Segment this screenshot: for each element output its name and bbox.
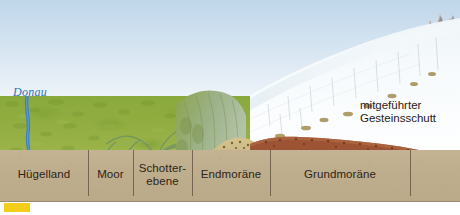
callout-mitgefuehrter-gesteinsschutt: mitgeführter Gesteinsschutt <box>360 99 436 125</box>
donau-label: Donau <box>13 85 47 100</box>
zone-divider-unlabeled <box>410 150 411 196</box>
substrate-label-band: HügellandMoorSchotter- ebeneEndmoräneGru… <box>0 150 460 202</box>
zone-label-endmoraene: Endmoräne <box>192 168 270 181</box>
zone-label-schotterebene: Schotter- ebene <box>133 162 192 187</box>
zone-label-huegelland: Hügelland <box>0 168 88 181</box>
yellow-color-swatch <box>4 203 30 212</box>
zone-label-grundmoraene: Grundmoräne <box>270 168 410 181</box>
bottom-white-strip <box>0 202 460 215</box>
zone-label-moor: Moor <box>88 168 133 181</box>
ice-age-landscape-diagram: Donau <box>0 0 460 215</box>
